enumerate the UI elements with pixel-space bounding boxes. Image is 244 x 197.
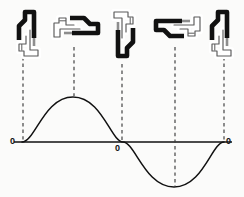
wire-element-phase-5 bbox=[212, 12, 231, 56]
axis-label-zero-start: 0 bbox=[10, 137, 15, 146]
phase-diagram-figure: 0 0 0 bbox=[0, 0, 244, 197]
axis-label-zero-end: 0 bbox=[226, 137, 231, 146]
wire-element-group bbox=[19, 12, 231, 56]
wire-element-phase-3 bbox=[114, 12, 133, 56]
diagram-canvas bbox=[0, 0, 244, 197]
wire-element-phase-2 bbox=[54, 18, 98, 37]
axis-label-zero-mid: 0 bbox=[115, 144, 120, 153]
leader-line-group bbox=[23, 47, 224, 186]
wire-element-phase-4 bbox=[156, 17, 200, 36]
wire-element-phase-1 bbox=[19, 12, 38, 56]
